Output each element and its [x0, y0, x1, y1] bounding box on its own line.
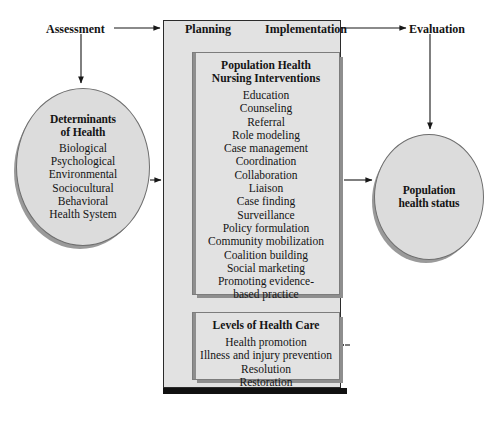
diagram-canvas: Assessment Planning Implementation Evalu… [0, 0, 495, 427]
determinant-item: Biological [49, 142, 117, 155]
intervention-item: Social marketing [193, 262, 339, 275]
level-of-care-item: Health promotion [193, 336, 339, 349]
population-health-status-ellipse: Population health status [374, 134, 484, 260]
intervention-item: Community mobilization [193, 235, 339, 248]
intervention-item: Counseling [193, 102, 339, 115]
label-implementation: Implementation [265, 22, 347, 37]
level-of-care-item: Restoration [193, 376, 339, 389]
label-planning: Planning [185, 22, 231, 37]
determinants-title: Determinants of Health [50, 113, 116, 139]
determinant-item: Behavioral [49, 195, 117, 208]
interventions-list: EducationCounselingReferralRole modeling… [193, 85, 339, 302]
intervention-item: Case management [193, 142, 339, 155]
intervention-item: Liaison [193, 182, 339, 195]
determinant-item: Environmental [49, 168, 117, 181]
intervention-item: Policy formulation [193, 222, 339, 235]
determinant-item: Health System [49, 208, 117, 221]
intervention-item: Collaboration [193, 169, 339, 182]
determinant-item: Psychological [49, 155, 117, 168]
label-evaluation: Evaluation [409, 22, 465, 37]
determinants-title-line1: Determinants [50, 113, 116, 126]
intervention-item: Role modeling [193, 129, 339, 142]
determinant-item: Sociocultural [49, 182, 117, 195]
intervention-item: based practice [193, 288, 339, 301]
levels-title: Levels of Health Care [193, 313, 339, 332]
outcome-title: Population health status [398, 184, 459, 210]
intervention-item: Promoting evidence- [193, 275, 339, 288]
level-of-care-item: Illness and injury prevention [193, 349, 339, 362]
interventions-title-line1: Population Health [193, 59, 339, 72]
intervention-item: Referral [193, 116, 339, 129]
outcome-title-line2: health status [398, 197, 459, 210]
intervention-item: Coordination [193, 155, 339, 168]
intervention-item: Case finding [193, 195, 339, 208]
levels-list: Health promotionIllness and injury preve… [193, 332, 339, 389]
interventions-title: Population Health Nursing Interventions [193, 53, 339, 85]
intervention-item: Coalition building [193, 249, 339, 262]
determinants-title-line2: of Health [50, 126, 116, 139]
label-assessment: Assessment [46, 22, 105, 37]
determinants-of-health-ellipse: Determinants of Health BiologicalPsychol… [16, 88, 150, 246]
determinants-list: BiologicalPsychologicalEnvironmentalSoci… [49, 142, 117, 221]
levels-of-health-care-panel: Levels of Health Care Health promotionIl… [192, 312, 340, 380]
intervention-item: Education [193, 89, 339, 102]
intervention-item: Surveillance [193, 209, 339, 222]
outcome-title-line1: Population [398, 184, 459, 197]
population-health-nursing-interventions-panel: Population Health Nursing Interventions … [192, 52, 340, 295]
interventions-title-line2: Nursing Interventions [193, 72, 339, 85]
level-of-care-item: Resolution [193, 363, 339, 376]
